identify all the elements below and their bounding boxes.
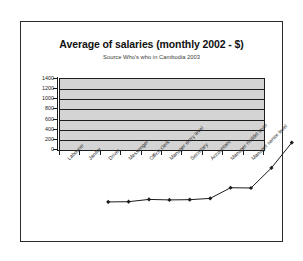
x-tick-mark [243,151,244,155]
x-tick-mark [181,151,182,155]
x-tick-mark [202,151,203,155]
data-point-marker [208,196,212,200]
x-tick-mark [161,151,162,155]
data-point-marker [167,198,171,202]
x-tick-mark [79,151,80,155]
data-point-marker [106,200,110,204]
series-line [108,143,292,202]
x-tick-mark [120,151,121,155]
x-tick-mark [222,151,223,155]
gridline [60,140,264,141]
y-axis-tick-labels: 1400120010008006004002000 [21,74,57,153]
x-tick-mark [100,151,101,155]
data-point-marker [147,197,151,201]
x-tick-mark [59,151,60,155]
data-point-marker [188,198,192,202]
data-point-marker [229,186,233,190]
chart-subtitle: Source Who's who in Cambodia 2003 [21,54,282,60]
gridline [60,130,264,131]
x-tick-mark [263,151,264,155]
gridline [60,109,264,110]
data-point-marker [127,200,131,204]
gridline [60,89,264,90]
y-axis-line [57,77,58,151]
gridline [60,120,264,121]
gridline [60,99,264,100]
chart-card: Average of salaries (monthly 2002 - $) S… [20,21,283,242]
x-tick-mark [141,151,142,155]
chart-title: Average of salaries (monthly 2002 - $) [21,38,282,50]
plot-area [59,78,265,151]
series-line-salaries [98,135,302,207]
